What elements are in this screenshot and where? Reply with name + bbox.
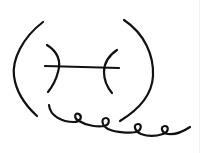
diagram-canvas — [0, 0, 209, 153]
left-outer-arc — [14, 22, 43, 116]
horizontal-connector — [45, 66, 119, 68]
left-inner-arc — [47, 45, 59, 92]
sketch-drawing — [0, 0, 209, 153]
right-outer-arc — [120, 20, 153, 121]
right-inner-arc — [104, 50, 117, 93]
